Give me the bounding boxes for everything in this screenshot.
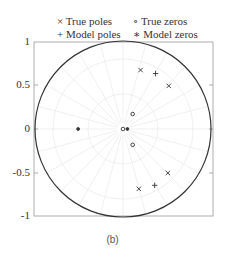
figure-caption: (b) — [0, 234, 225, 245]
model-zeros-marker — [77, 128, 80, 131]
true-poles-marker — [166, 171, 170, 175]
true-poles-marker — [167, 84, 171, 88]
pole-zero-plot — [0, 0, 225, 264]
polar-grid — [35, 41, 211, 217]
model-zeros-marker — [126, 128, 129, 131]
true-zeros-marker — [121, 127, 125, 131]
